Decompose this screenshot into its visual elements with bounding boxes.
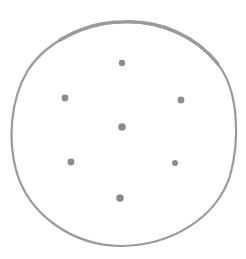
outer-circle-thick-segment (60, 22, 218, 64)
circle-with-dots-drawing (0, 0, 246, 259)
dot-bottom (116, 194, 124, 202)
dot-center (118, 123, 126, 131)
dot-top (119, 60, 125, 66)
dot-group (62, 60, 185, 202)
dot-lower-right (172, 160, 178, 166)
drawing-canvas (0, 0, 246, 259)
dot-lower-left (68, 159, 75, 166)
outer-circle-outline (12, 22, 237, 246)
dot-upper-right (178, 97, 185, 104)
dot-upper-left (62, 95, 69, 102)
